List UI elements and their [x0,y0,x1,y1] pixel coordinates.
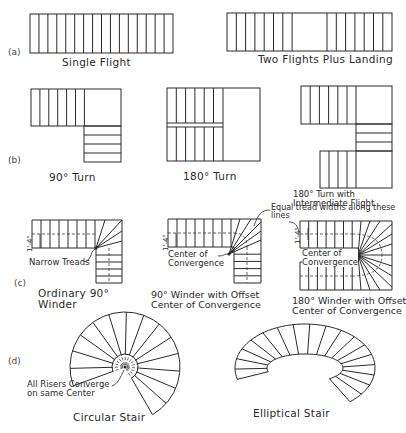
row-label-a: (a) [8,48,21,57]
dimension-label-3: 1'-4" [295,227,302,244]
annotation-all-risers: All Risers Converge on same Center [27,380,110,398]
one-eighty-intermediate-plan [301,86,392,188]
caption-two-flights: Two Flights Plus Landing [258,54,393,65]
row-label-d: (d) [8,357,21,366]
dimension-label-1: 1'-4" [27,235,34,252]
caption-ninety-turn: 90° Turn [49,172,96,183]
ordinary-winder-plan [32,220,122,283]
annotation-center-convergence-2: Center of Convergence [302,249,358,267]
annotation-equal-tread: Equal tread widths along these lines [271,204,395,221]
stair-types-diagram: (a) (b) (c) (d) Single Flight Two Flight… [0,0,406,433]
ninety-turn-plan [31,89,121,162]
caption-offset-winder: 90° Winder with Offset Center of Converg… [151,290,261,310]
caption-elliptical-stair: Elliptical Stair [253,408,330,419]
caption-circular-stair: Circular Stair [73,412,145,423]
circular-stair-plan [70,312,180,415]
caption-ordinary-winder: Ordinary 90° Winder [38,288,109,310]
caption-single-flight: Single Flight [62,57,131,68]
annotation-narrow-treads: Narrow Treads [29,258,90,267]
one-eighty-turn-plan [167,88,260,161]
row-label-c: (c) [14,279,26,288]
caption-one-eighty-turn: 180° Turn [183,171,237,182]
two-flights-landing-plan [227,13,392,51]
dimension-label-2: 1'-4" [163,234,170,251]
elliptical-stair-plan [235,324,375,402]
row-label-b: (b) [8,156,21,165]
single-flight-plan [30,14,173,53]
annotation-center-convergence-1: Center of Convergence [168,250,224,268]
caption-one-eighty-winder: 180° Winder with Offset Center of Conver… [292,296,406,316]
